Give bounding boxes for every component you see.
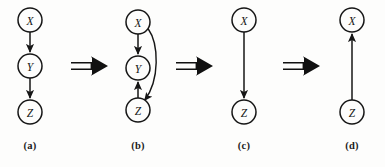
- node-x-label: X: [133, 17, 142, 29]
- panel-c-graph: X Z: [214, 0, 274, 135]
- implies-arrow-2: [175, 52, 215, 80]
- node-z-label: Z: [135, 105, 142, 117]
- panel-c-caption: (c): [214, 140, 274, 151]
- node-z-label: Z: [27, 107, 34, 119]
- panel-b-caption: (b): [108, 140, 168, 151]
- node-x-label: X: [25, 15, 34, 27]
- implies-arrow-1: [70, 52, 110, 80]
- panel-a-graph: X Y Z: [0, 0, 60, 135]
- panel-c: X Z (c): [214, 0, 274, 167]
- panel-a: X Y Z (a): [0, 0, 60, 167]
- implies-glyph-3: [283, 56, 320, 75]
- node-z-label: Z: [241, 107, 248, 119]
- panel-b: X Y Z (b): [108, 0, 168, 167]
- implies-arrow-3: [282, 52, 322, 80]
- panel-d-caption: (d): [322, 140, 382, 151]
- node-z-label: Z: [349, 107, 356, 119]
- panel-b-graph: X Y Z: [108, 0, 168, 135]
- panel-d-graph: X Z: [322, 0, 382, 135]
- panel-d: X Z (d): [322, 0, 382, 167]
- panel-a-caption: (a): [0, 140, 60, 151]
- causal-graph-figure: X Y Z (a): [0, 0, 385, 167]
- implies-glyph-2: [176, 56, 213, 75]
- implies-glyph-1: [71, 56, 108, 75]
- node-x-label: X: [347, 15, 356, 27]
- node-x-label: X: [239, 15, 248, 27]
